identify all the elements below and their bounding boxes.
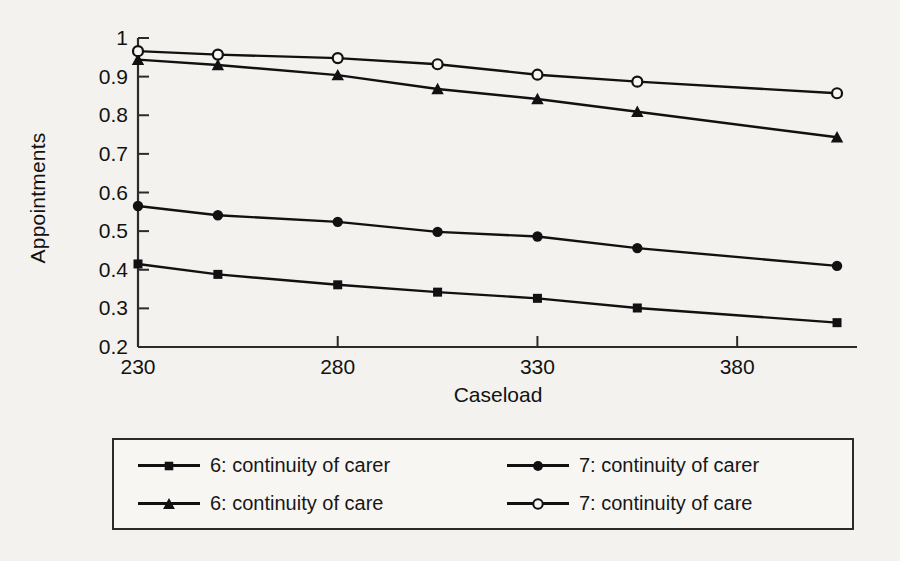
marker-filled-circle: [333, 217, 343, 227]
chart-figure: Appointments Caseload 0.20.30.40.50.60.7…: [0, 0, 900, 561]
series-3: [133, 201, 842, 271]
legend-marker-sample: [507, 494, 569, 512]
marker-filled-square: [213, 270, 222, 279]
marker-open-circle: [533, 499, 543, 509]
marker-filled-circle: [832, 261, 842, 271]
marker-filled-triangle: [163, 498, 175, 509]
marker-filled-square: [165, 462, 174, 471]
series-2: [132, 53, 843, 142]
legend-item[interactable]: 6: continuity of care: [114, 492, 483, 515]
marker-filled-circle: [133, 201, 143, 211]
marker-filled-square: [833, 318, 842, 327]
marker-filled-square: [134, 259, 143, 268]
legend-item[interactable]: 7: continuity of carer: [483, 454, 852, 477]
legend-filled-circle-icon: [530, 458, 546, 474]
data-series-group: [132, 46, 843, 327]
legend-marker-sample: [507, 456, 569, 474]
marker-open-circle: [832, 88, 842, 98]
marker-open-circle: [133, 46, 143, 56]
marker-filled-square: [333, 280, 342, 289]
legend-item-label: 7: continuity of care: [579, 492, 752, 515]
marker-filled-circle: [533, 461, 543, 471]
legend-filled-square-icon: [161, 458, 177, 474]
legend-item[interactable]: 6: continuity of carer: [114, 454, 483, 477]
legend-filled-triangle-icon: [161, 496, 177, 512]
marker-open-circle: [632, 77, 642, 87]
legend-marker-sample: [138, 456, 200, 474]
series-line: [138, 264, 837, 323]
marker-filled-circle: [213, 210, 223, 220]
marker-open-circle: [333, 53, 343, 63]
marker-open-circle: [532, 70, 542, 80]
marker-filled-circle: [432, 227, 442, 237]
marker-filled-square: [633, 303, 642, 312]
series-line: [138, 51, 837, 93]
legend: 6: continuity of carer7: continuity of c…: [112, 438, 854, 530]
series-line: [138, 60, 837, 138]
marker-open-circle: [433, 59, 443, 69]
marker-filled-circle: [632, 243, 642, 253]
series-line: [138, 206, 837, 266]
legend-item-label: 6: continuity of care: [210, 492, 383, 515]
marker-filled-circle: [532, 231, 542, 241]
series-4: [133, 46, 842, 98]
legend-item-label: 7: continuity of carer: [579, 454, 759, 477]
marker-filled-square: [433, 288, 442, 297]
axes: [138, 38, 857, 347]
legend-open-circle-icon: [530, 496, 546, 512]
marker-filled-square: [533, 294, 542, 303]
legend-item[interactable]: 7: continuity of care: [483, 492, 852, 515]
marker-open-circle: [213, 50, 223, 60]
plot-area-container: Appointments Caseload 0.20.30.40.50.60.7…: [0, 0, 900, 561]
legend-marker-sample: [138, 494, 200, 512]
legend-item-label: 6: continuity of carer: [210, 454, 390, 477]
series-1: [134, 259, 842, 327]
